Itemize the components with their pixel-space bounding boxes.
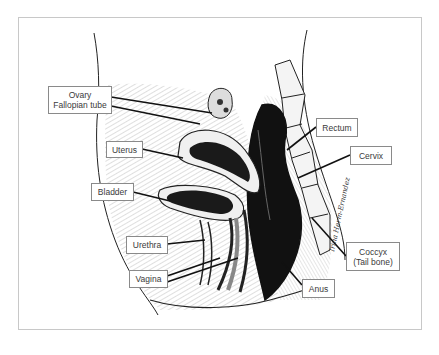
label-text: Cervix xyxy=(359,151,383,161)
label-cervix: Cervix xyxy=(350,146,392,165)
label-text: (Tail bone) xyxy=(353,257,393,267)
label-ovary-fallopian-tube: Ovary Fallopian tube xyxy=(48,86,112,114)
label-text: Ovary xyxy=(69,90,92,100)
label-urethra: Urethra xyxy=(126,236,168,254)
label-text: Urethra xyxy=(133,240,161,250)
label-text: Uterus xyxy=(112,145,137,155)
label-rectum: Rectum xyxy=(316,118,358,137)
pelvic-anatomy-illustration: Irina Herm-Ernandez xyxy=(0,0,439,355)
label-text: Bladder xyxy=(98,187,127,197)
label-text: Anus xyxy=(309,284,328,294)
label-coccyx: Coccyx (Tail bone) xyxy=(346,242,400,271)
label-text: Fallopian tube xyxy=(53,100,106,110)
label-anus: Anus xyxy=(302,279,335,298)
label-text: Rectum xyxy=(322,123,351,133)
label-uterus: Uterus xyxy=(106,141,143,158)
label-vagina: Vagina xyxy=(129,270,168,288)
label-bladder: Bladder xyxy=(91,183,134,201)
label-text: Vagina xyxy=(136,274,162,284)
label-text: Coccyx xyxy=(359,247,387,257)
